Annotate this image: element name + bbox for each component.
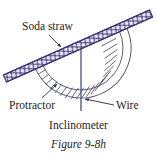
soda-straw-leader-line bbox=[49, 35, 61, 47]
wire-leader-line bbox=[85, 99, 114, 105]
inclinometer-title: Inclinometer bbox=[0, 120, 157, 132]
soda-straw-label: Soda straw bbox=[22, 21, 73, 33]
protractor-label: Protractor bbox=[9, 100, 55, 112]
inclinometer-figure: Soda straw Protractor Wire Inclinometer … bbox=[0, 0, 157, 159]
figure-caption: Figure 9-8h bbox=[0, 139, 157, 151]
wire-label: Wire bbox=[116, 100, 139, 112]
